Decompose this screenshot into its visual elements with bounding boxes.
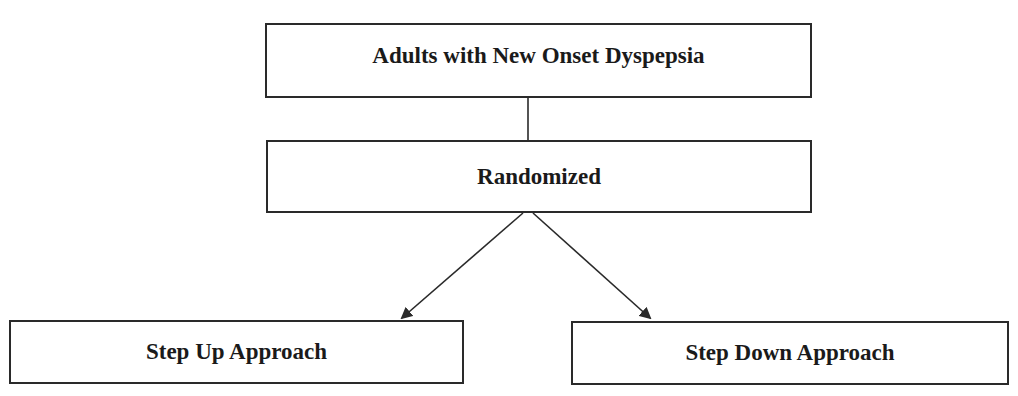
node-population: Adults with New Onset Dyspepsia xyxy=(265,23,812,98)
node-randomized-label: Randomized xyxy=(477,164,601,190)
figure-caption-clipped xyxy=(0,0,1018,10)
node-step-up-label: Step Up Approach xyxy=(146,339,327,365)
node-randomized: Randomized xyxy=(266,140,812,213)
node-step-down-label: Step Down Approach xyxy=(685,340,894,366)
node-step-down: Step Down Approach xyxy=(571,321,1009,385)
node-step-up: Step Up Approach xyxy=(9,320,464,384)
node-population-label: Adults with New Onset Dyspepsia xyxy=(372,43,704,69)
arrow-to-step-up xyxy=(402,213,523,318)
arrow-to-step-down xyxy=(533,213,650,318)
